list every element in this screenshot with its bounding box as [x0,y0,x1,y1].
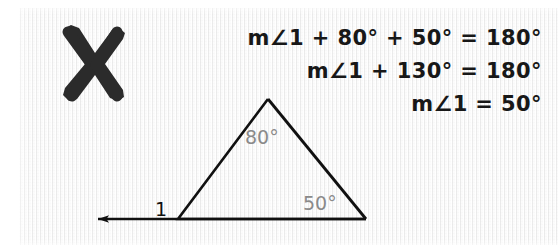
equation-line-1: m∠1 + 80° + 50° = 180° [180,22,542,55]
worksheet-figure: m∠1 + 80° + 50° = 180° m∠1 + 130° = 180°… [0,0,558,249]
apex-angle-label: 80° [245,126,279,148]
triangle-left-and-base [178,99,366,219]
equation-line-2: m∠1 + 130° = 180° [180,55,542,88]
exterior-angle-label: 1 [155,198,167,220]
base-right-angle-label: 50° [303,192,337,214]
